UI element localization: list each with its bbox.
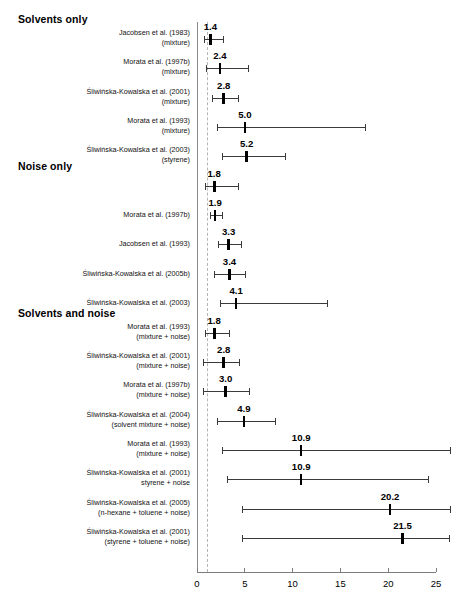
- point-estimate-value: 20.2: [381, 491, 400, 502]
- confidence-interval-cap-high: [245, 271, 246, 278]
- study-citation: Morata et al. (1993): [127, 323, 190, 331]
- confidence-interval-cap-low: [205, 330, 206, 337]
- study-citation: Morata et al. (1997b): [123, 381, 190, 389]
- study-exposure: (n-hexane + toluene + noise): [87, 509, 190, 517]
- study-exposure: (styrene + toluene + noise): [87, 538, 190, 546]
- point-estimate-marker: [235, 298, 238, 309]
- confidence-interval-cap-low: [227, 476, 228, 483]
- confidence-interval-cap-low: [217, 124, 218, 131]
- confidence-interval-cap-low: [210, 212, 211, 219]
- x-axis-tick: [197, 568, 198, 572]
- study-label: Śliwińska-Kowalska et al. (2001)(mixture…: [87, 352, 190, 370]
- confidence-interval-cap-high: [275, 418, 276, 425]
- confidence-interval-cap-high: [428, 476, 429, 483]
- forest-plot: 05101520251.4Jacobsen et al. (1983)(mixt…: [0, 0, 467, 609]
- study-label: Śliwińska-Kowalska et al. (2005)(n-hexan…: [87, 499, 190, 517]
- study-exposure: styrene + noise: [87, 479, 190, 487]
- point-estimate-value: 2.8: [217, 80, 230, 91]
- point-estimate-value: 2.4: [213, 50, 226, 61]
- x-axis-tick-label: 15: [335, 578, 346, 589]
- confidence-interval-cap-low: [205, 183, 206, 190]
- study-citation: Śliwińska-Kowalska et al. (2001): [87, 469, 190, 477]
- study-label: Śliwińska-Kowalska et al. (2004)(solvent…: [87, 411, 190, 429]
- point-estimate-value: 21.5: [393, 520, 412, 531]
- study-label: Morata et al. (1993)(mixture + noise): [127, 323, 190, 341]
- confidence-interval-cap-high: [239, 359, 240, 366]
- point-estimate-value: 10.9: [292, 461, 311, 472]
- study-citation: Morata et al. (1993): [127, 440, 190, 448]
- confidence-interval-cap-high: [241, 241, 242, 248]
- point-estimate-value: 1.4: [204, 21, 217, 32]
- study-label: Morata et al. (1993)(mixture + noise): [127, 440, 190, 458]
- confidence-interval-cap-high: [449, 535, 450, 542]
- confidence-interval-line: [242, 538, 449, 539]
- study-citation: Morata et al. (1997b): [123, 58, 190, 66]
- x-axis-tick-label: 10: [287, 578, 298, 589]
- confidence-interval-cap-high: [327, 300, 328, 307]
- study-label: Śliwińska-Kowalska et al. (2001)(mixture…: [87, 88, 190, 106]
- confidence-interval-cap-high: [450, 447, 451, 454]
- study-citation: Śliwińska-Kowalska et al. (2001): [87, 352, 190, 360]
- point-estimate-value: 4.9: [237, 403, 250, 414]
- x-axis-tick: [436, 568, 437, 572]
- point-estimate-marker: [244, 122, 247, 133]
- section-header-solvents-only: Solvents only: [18, 13, 88, 25]
- reference-line-at-1: [207, 22, 208, 572]
- study-label: Morata et al. (1993)(mixture): [127, 117, 190, 135]
- point-estimate-marker: [243, 416, 246, 427]
- point-estimate-marker: [209, 34, 212, 45]
- x-axis-tick: [388, 568, 389, 572]
- confidence-interval-line: [205, 333, 229, 334]
- point-estimate-marker: [213, 181, 216, 192]
- study-label: Śliwińska-Kowalska et al. (2005b): [83, 270, 190, 278]
- confidence-interval-line: [203, 362, 239, 363]
- confidence-interval-cap-low: [242, 506, 243, 513]
- confidence-interval-cap-high: [238, 95, 239, 102]
- confidence-interval-cap-low: [222, 447, 223, 454]
- confidence-interval-cap-high: [248, 65, 249, 72]
- confidence-interval-cap-low: [206, 65, 207, 72]
- confidence-interval-line: [217, 127, 365, 128]
- point-estimate-marker: [245, 151, 248, 162]
- confidence-interval-cap-high: [249, 388, 250, 395]
- confidence-interval-cap-low: [203, 388, 204, 395]
- study-exposure: (mixture + noise): [127, 333, 190, 341]
- point-estimate-marker: [300, 445, 303, 456]
- confidence-interval-cap-low: [217, 418, 218, 425]
- x-axis-tick-label: 0: [194, 578, 199, 589]
- study-exposure: (mixture): [123, 68, 190, 76]
- study-citation: Jacobsen et al. (1993): [119, 240, 190, 248]
- study-label: Śliwińska-Kowalska et al. (2001)styrene …: [87, 469, 190, 487]
- study-label: Morata et al. (1997b)(mixture): [123, 58, 190, 76]
- point-estimate-marker: [401, 533, 404, 544]
- x-axis-tick: [340, 568, 341, 572]
- point-estimate-value: 3.0: [219, 373, 232, 384]
- x-axis-line: [197, 572, 436, 573]
- x-axis-tick: [244, 568, 245, 572]
- study-citation: Śliwińska-Kowalska et al. (2005b): [83, 270, 190, 278]
- confidence-interval-cap-low: [204, 36, 205, 43]
- point-estimate-value: 3.3: [222, 226, 235, 237]
- confidence-interval-cap-low: [212, 95, 213, 102]
- point-estimate-marker: [227, 239, 230, 250]
- confidence-interval-cap-low: [220, 300, 221, 307]
- study-citation: Śliwińska-Kowalska et al. (2003): [87, 146, 190, 154]
- point-estimate-value: 2.8: [217, 344, 230, 355]
- point-estimate-marker: [219, 63, 222, 74]
- point-estimate-value: 1.9: [208, 197, 221, 208]
- confidence-interval-line: [227, 479, 429, 480]
- section-header-noise-only: Noise only: [18, 160, 72, 172]
- point-estimate-marker: [213, 328, 216, 339]
- study-exposure: (mixture): [87, 98, 190, 106]
- study-exposure: (solvent mixture + noise): [87, 421, 190, 429]
- point-estimate-value: 1.8: [208, 315, 221, 326]
- confidence-interval-cap-high: [365, 124, 366, 131]
- confidence-interval-cap-low: [242, 535, 243, 542]
- confidence-interval-cap-high: [223, 36, 224, 43]
- point-estimate-value: 5.2: [240, 138, 253, 149]
- study-exposure: (mixture + noise): [127, 450, 190, 458]
- section-header-solvents-and-noise: Solvents and noise: [18, 307, 116, 319]
- confidence-interval-line: [222, 156, 285, 157]
- confidence-interval-line: [222, 450, 450, 451]
- point-estimate-value: 4.1: [230, 285, 243, 296]
